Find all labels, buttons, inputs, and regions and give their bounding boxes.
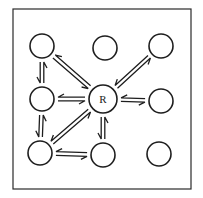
circle-node-icon [93,36,117,60]
edge-TL-ML [37,62,47,83]
half-arrow-icon [44,62,47,83]
circle-node-icon [28,141,52,165]
circle-node-icon [147,142,171,166]
half-arrow-icon [56,149,87,153]
node-BM [91,143,115,167]
half-arrow-icon [56,155,87,159]
node-layer: R [28,34,173,167]
edge-BL-BM [56,149,87,160]
half-arrow-icon [51,109,88,141]
node-BL [28,141,52,165]
half-arrow-icon [121,95,145,99]
node-BR [147,142,171,166]
circle-node-icon [149,89,173,113]
half-arrow-icon [53,112,90,144]
half-arrow-icon [55,55,90,86]
half-arrow-icon [121,101,145,105]
circle-node-icon [91,143,115,167]
edge-TR-R [115,56,150,89]
node-R: R [89,85,117,113]
half-arrow-icon [53,58,88,89]
edge-R-MR [121,95,145,105]
edge-R-BM [98,117,108,139]
half-arrow-icon [37,62,40,83]
half-arrow-icon [115,56,148,86]
circle-node-icon [149,34,173,58]
half-arrow-icon [105,117,108,139]
half-arrow-icon [58,101,85,104]
half-arrow-icon [36,115,40,137]
edge-TL-R [53,55,91,89]
half-arrow-icon [42,115,46,137]
node-TR [149,34,173,58]
node-label: R [99,93,107,105]
network-diagram: R [0,0,203,198]
edge-BL-R [51,109,91,144]
edge-ML-BL [36,115,46,137]
edge-ML-R [58,94,85,104]
half-arrow-icon [98,117,101,139]
node-TL [30,34,54,58]
half-arrow-icon [118,58,151,88]
circle-node-icon [30,34,54,58]
node-ML [30,87,54,111]
node-TM [93,36,117,60]
half-arrow-icon [58,94,85,97]
circle-node-icon [30,87,54,111]
node-MR [149,89,173,113]
